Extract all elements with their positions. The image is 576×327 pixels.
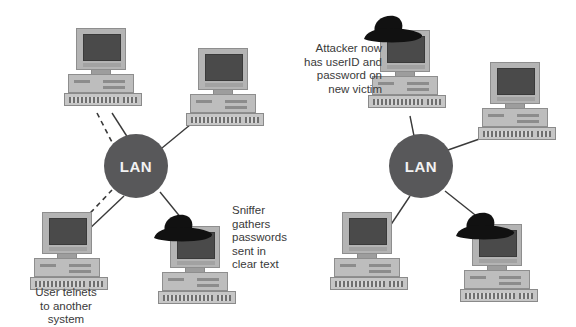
keyboard-keys	[483, 131, 533, 137]
vent-slot-lower	[407, 88, 429, 91]
monitor-chin	[83, 63, 121, 67]
monitor	[76, 28, 126, 70]
computer-attacker[interactable]	[460, 224, 538, 304]
caption-attacker: Attacker now has userID and password on …	[304, 42, 382, 96]
keyboard	[478, 127, 556, 140]
keyboard	[460, 289, 538, 302]
vent-slot-lower	[225, 106, 247, 109]
screen	[83, 34, 121, 61]
monitor	[342, 212, 392, 254]
computer-case	[68, 74, 134, 93]
monitor	[42, 212, 92, 254]
screen	[177, 232, 215, 259]
keyboard-keys	[335, 281, 385, 287]
vent-slot-upper	[103, 80, 125, 83]
computer-top-right[interactable]	[478, 62, 556, 142]
monitor-chin	[349, 247, 387, 251]
lan-label: LAN	[405, 159, 437, 174]
vent-slot-lower	[103, 86, 125, 89]
drive-slot	[196, 100, 212, 103]
monitor	[170, 226, 220, 268]
network-sniffing-diagram: LAN Sniffer gathers passwords sent in cl…	[0, 0, 576, 327]
vent-slot-lower	[499, 282, 521, 285]
monitor-chin	[205, 83, 243, 87]
panel-before-attack: LAN Sniffer gathers passwords sent in cl…	[0, 0, 288, 327]
caption-sniffer: Sniffer gathers passwords sent in clear …	[232, 204, 288, 272]
link-top-left-solid	[112, 113, 128, 138]
computer-case	[162, 272, 228, 291]
lan-node[interactable]: LAN	[104, 134, 168, 198]
panel-after-attack: LAN Attacker now has userID and password…	[288, 0, 576, 327]
keyboard-numpad	[123, 97, 137, 103]
monitor-chin	[49, 247, 87, 251]
keyboard-numpad	[217, 295, 231, 301]
vent-slot-upper	[369, 264, 391, 267]
keyboard	[158, 291, 236, 304]
computer-sniffer[interactable]	[158, 226, 236, 306]
drive-slot	[470, 276, 486, 279]
lan-label: LAN	[120, 159, 152, 174]
monitor-chin	[497, 97, 535, 101]
vent-slot-upper	[197, 278, 219, 281]
screen	[49, 218, 87, 245]
lan-node[interactable]: LAN	[389, 134, 453, 198]
monitor	[490, 62, 540, 104]
monitor	[472, 224, 522, 266]
monitor-chin	[177, 261, 215, 265]
link-attacker-solid	[445, 191, 484, 222]
vent-slot-lower	[69, 270, 91, 273]
drive-slot	[168, 278, 184, 281]
computer-case	[190, 94, 256, 113]
keyboard-keys	[69, 97, 119, 103]
computer-top-right[interactable]	[186, 48, 264, 128]
screen	[479, 230, 517, 257]
vent-slot-lower	[369, 270, 391, 273]
vent-slot-upper	[499, 276, 521, 279]
monitor-chin	[479, 259, 517, 263]
keyboard	[368, 95, 446, 108]
vent-slot-upper	[69, 264, 91, 267]
drive-slot	[40, 264, 56, 267]
keyboard-keys	[191, 117, 241, 123]
keyboard-keys	[373, 99, 423, 105]
vent-slot-upper	[407, 82, 429, 85]
computer-case	[34, 258, 100, 277]
keyboard-numpad	[389, 281, 403, 287]
keyboard-numpad	[427, 99, 441, 105]
caption-user-telnets: User telnets to another system	[22, 286, 110, 327]
keyboard	[64, 93, 142, 106]
keyboard	[186, 113, 264, 126]
screen	[205, 54, 243, 81]
computer-bottom-left[interactable]	[30, 212, 108, 292]
drive-slot	[488, 114, 504, 117]
vent-slot-upper	[517, 114, 539, 117]
link-victim-solid	[410, 116, 414, 136]
computer-bottom-left[interactable]	[330, 212, 408, 292]
keyboard-keys	[163, 295, 213, 301]
screen	[349, 218, 387, 245]
keyboard-keys	[465, 293, 515, 299]
drive-slot	[340, 264, 356, 267]
computer-case	[334, 258, 400, 277]
monitor-chin	[387, 65, 425, 69]
computer-top-left[interactable]	[64, 28, 142, 108]
computer-case	[464, 270, 530, 289]
monitor	[380, 30, 430, 72]
vent-slot-upper	[225, 100, 247, 103]
screen	[497, 68, 535, 95]
vent-slot-lower	[197, 284, 219, 287]
computer-case	[482, 108, 548, 127]
vent-slot-lower	[517, 120, 539, 123]
link-sniffer-solid	[160, 192, 186, 224]
keyboard-numpad	[245, 117, 259, 123]
keyboard-numpad	[519, 293, 533, 299]
keyboard	[330, 277, 408, 290]
screen	[387, 36, 425, 63]
keyboard-numpad	[537, 131, 551, 137]
monitor	[198, 48, 248, 90]
drive-slot	[74, 80, 90, 83]
